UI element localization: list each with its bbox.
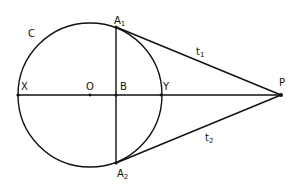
geometry-diagram: C X O B Y P A1 A2 t1 t2 xyxy=(0,0,300,187)
label-a2: A2 xyxy=(117,168,128,181)
label-x: X xyxy=(21,81,28,92)
label-y: Y xyxy=(162,81,170,92)
tangent-t1 xyxy=(116,27,281,95)
point-b xyxy=(114,93,117,96)
point-o xyxy=(89,94,92,97)
svg-text:t2: t2 xyxy=(205,132,213,145)
label-o: O xyxy=(86,81,94,92)
svg-text:A2: A2 xyxy=(117,168,128,181)
label-c: C xyxy=(28,28,35,39)
point-a2 xyxy=(114,161,117,164)
label-t2: t2 xyxy=(205,132,213,145)
label-p: P xyxy=(279,77,285,88)
label-t1: t1 xyxy=(196,46,204,59)
label-b: B xyxy=(120,81,127,92)
point-x xyxy=(16,93,19,96)
point-y xyxy=(160,94,163,97)
svg-text:t1: t1 xyxy=(196,46,204,59)
point-p xyxy=(279,93,283,97)
tangent-t2 xyxy=(116,95,281,163)
